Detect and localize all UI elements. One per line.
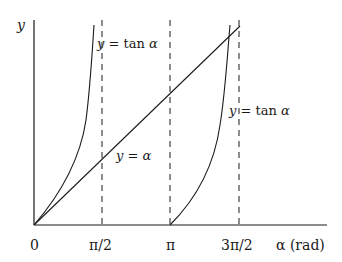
y-axis-label: y: [16, 17, 26, 33]
tick-label-3pi-over-2: 3π/2: [221, 237, 253, 253]
label-line: y = α: [115, 148, 152, 163]
tick-label-pi: π: [166, 237, 175, 253]
label-tan-right: y = tan α: [228, 103, 290, 118]
x-axis-label: α (rad): [276, 237, 325, 253]
label-tan-left: y = tan α: [96, 36, 158, 51]
tan-alpha-diagram: y y = tan α y = α y = tan α 0 π/2 π 3π/2…: [0, 0, 342, 262]
curve-tan-left: [34, 25, 94, 225]
curve-tan-right: [170, 25, 230, 225]
line-y-equals-alpha: [34, 26, 240, 225]
tick-label-0: 0: [30, 237, 39, 253]
tick-label-pi-over-2: π/2: [89, 237, 112, 253]
